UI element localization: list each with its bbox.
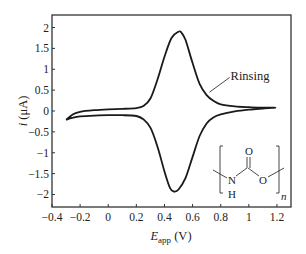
chem-atom-o-carbonyl: O (245, 145, 253, 157)
y-tick-label: −1 (37, 147, 49, 159)
y-tick-label: 1.5 (35, 42, 50, 54)
annotation-rinsing: Rinsing (231, 69, 271, 83)
x-tick-label: 1 (246, 211, 252, 223)
x-tick-label: 0.6 (185, 211, 200, 223)
x-tick-label: 1.2 (270, 211, 285, 223)
x-tick-label: 0.4 (157, 211, 172, 223)
chem-subscript-n: n (281, 190, 287, 202)
y-axis-ticks: 21.510.50−0.5−1−1.5−2 (28, 22, 55, 201)
y-tick-label: −0.5 (28, 126, 49, 138)
y-tick-label: 1 (43, 63, 49, 75)
cv-curve-rinsing (66, 31, 275, 191)
chem-atom-h: H (228, 188, 236, 200)
y-axis-label: i (μA) (16, 96, 30, 127)
y-tick-label: 2 (43, 22, 49, 34)
cyclic-voltammogram-chart: −0.4−0.200.20.40.60.811.2 21.510.50−0.5−… (0, 0, 306, 254)
y-tick-label: −1.5 (28, 168, 49, 180)
x-tick-label: −0.4 (42, 211, 63, 223)
x-tick-label: 0.8 (214, 211, 229, 223)
y-tick-label: 0.5 (35, 84, 50, 96)
chem-atom-n: N (228, 174, 236, 186)
y-tick-label: −2 (37, 188, 49, 200)
annotation-leader-line (209, 78, 229, 93)
x-tick-label: −0.2 (70, 211, 91, 223)
x-tick-label: 0 (105, 211, 111, 223)
chem-atom-o-ester: O (259, 174, 267, 186)
x-tick-label: 0.2 (129, 211, 144, 223)
x-axis-label: Eapp (V) (149, 229, 191, 245)
y-tick-label: 0 (43, 105, 49, 117)
